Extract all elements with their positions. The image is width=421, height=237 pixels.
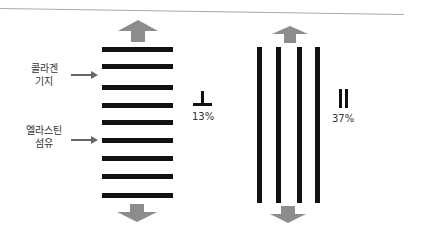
fiber-bar (297, 47, 302, 203)
collagen-bar (102, 85, 173, 90)
fiber-bar (315, 47, 320, 203)
collagen-matrix-label: 콜라겐 기지 (22, 62, 66, 88)
perpendicular-percentage: 13% (192, 111, 214, 122)
right-arrow-icon (71, 136, 98, 144)
collagen-bar (102, 156, 173, 161)
collagen-bar (102, 193, 173, 198)
down-arrow-icon (270, 206, 306, 223)
elastin-fiber-label: 엘라스틴 섬유 (20, 124, 68, 150)
parallel-percentage: 37% (332, 113, 354, 124)
down-arrow-icon (117, 204, 157, 222)
fiber-bar (276, 47, 281, 203)
perpendicular-icon (192, 91, 212, 107)
up-arrow-icon (272, 26, 308, 43)
collagen-bar (102, 64, 173, 69)
parallel-icon (338, 89, 350, 109)
collagen-bar (102, 174, 173, 179)
fiber-bar (257, 47, 262, 203)
right-arrow-icon (71, 71, 98, 79)
collagen-bar (102, 103, 173, 108)
collagen-bar (102, 120, 173, 125)
up-arrow-icon (118, 20, 158, 42)
collagen-bar (102, 138, 173, 143)
collagen-bar (102, 47, 173, 52)
top-divider-line (0, 8, 404, 15)
